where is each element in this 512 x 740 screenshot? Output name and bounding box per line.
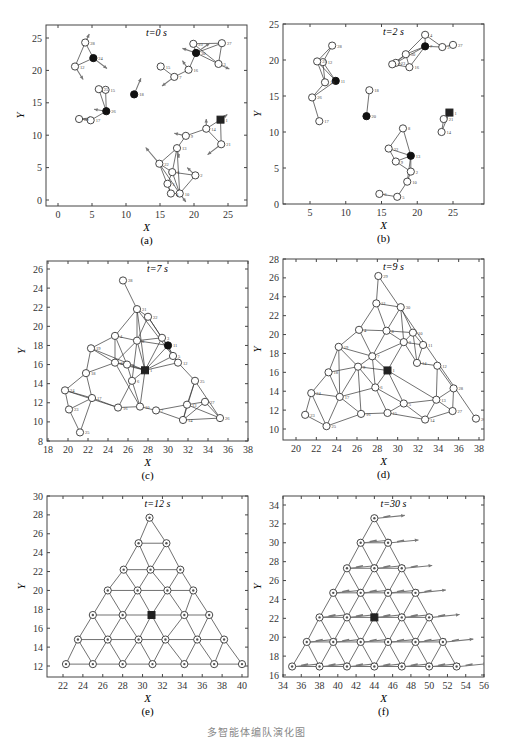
x-tick-label: 32	[413, 443, 423, 454]
y-axis-label: Y	[14, 111, 26, 119]
y-tick-label: 26	[269, 575, 279, 586]
agent-id-label: 6	[384, 192, 387, 197]
agent-circle	[87, 345, 94, 352]
formation-link	[340, 367, 358, 397]
formation-link	[115, 363, 140, 407]
agent-circle	[215, 60, 222, 67]
agent-center-dot	[165, 542, 167, 544]
agent-id-label: 18	[374, 88, 379, 93]
agent-id-label: 11	[428, 343, 432, 348]
panel-time-title: t=12 s	[145, 498, 171, 509]
agent-id-label: 17	[324, 119, 329, 124]
y-axis-label: Y	[251, 345, 263, 353]
y-tick-label: 20	[269, 55, 279, 66]
agent-center-dot	[241, 663, 243, 665]
y-tick-label: 24	[33, 547, 43, 558]
x-tick-label: 22	[311, 443, 321, 454]
agent-id-label: 22	[394, 147, 399, 152]
agent-filled-circle	[103, 108, 110, 115]
leader-agent-square	[384, 367, 391, 374]
arrow-head-icon	[182, 48, 186, 51]
agent-center-dot	[92, 663, 94, 665]
agent-id-label: 10	[418, 331, 423, 336]
leader-agent-square	[217, 116, 224, 123]
y-tick-label: 26	[33, 264, 43, 275]
agent-circle	[76, 429, 83, 436]
agent-circle	[201, 398, 208, 405]
x-tick-label: 20	[63, 444, 73, 455]
agent-center-dot	[208, 614, 210, 616]
formation-link	[374, 568, 388, 593]
y-tick-label: 14	[33, 378, 43, 389]
agent-id-label: 25	[332, 424, 337, 429]
x-tick-label: 50	[424, 680, 434, 691]
agent-filled-circle	[90, 54, 97, 61]
formation-link	[347, 593, 361, 618]
x-tick-label: 28	[118, 680, 128, 691]
agent-circle	[385, 145, 392, 152]
y-tick-label: 0	[37, 195, 42, 206]
x-axis-label: X	[143, 456, 152, 468]
plot-frame	[47, 261, 248, 441]
agent-id-label: 14	[188, 418, 193, 423]
x-tick-label: 38	[315, 680, 325, 691]
formation-link	[347, 617, 361, 642]
agent-circle	[450, 385, 457, 392]
agent-center-dot	[442, 641, 444, 643]
y-tick-label: 16	[33, 359, 43, 370]
formation-link	[359, 330, 372, 356]
x-tick-label: 26	[123, 444, 133, 455]
formation-link	[93, 590, 108, 615]
x-tick-label: 48	[406, 680, 416, 691]
y-tick-label: 30	[33, 491, 43, 502]
agent-circle	[173, 145, 180, 152]
agent-center-dot	[166, 589, 168, 591]
y-tick-label: 30	[269, 537, 279, 548]
agent-id-label: 4	[120, 334, 123, 339]
formation-link	[376, 276, 378, 303]
formation-link	[347, 568, 361, 593]
formation-link	[372, 331, 386, 357]
agent-id-label: 9	[401, 160, 404, 165]
x-tick-label: 38	[217, 680, 227, 691]
formation-link	[358, 367, 375, 388]
formation-link	[108, 615, 123, 640]
formation-link	[333, 642, 347, 667]
formation-link	[436, 366, 437, 400]
agent-circle	[449, 407, 456, 414]
formation-link	[307, 642, 320, 667]
agent-id-label: 20	[84, 117, 89, 122]
formation-link	[320, 617, 334, 642]
agent-id-label: 8	[408, 126, 411, 131]
formation-link	[165, 615, 184, 640]
formation-link	[139, 543, 151, 569]
formation-link	[123, 590, 138, 615]
agent-id-label: 29	[383, 274, 388, 279]
agent-center-dot	[428, 665, 430, 667]
agent-center-dot	[136, 589, 138, 591]
formation-link	[347, 642, 361, 667]
y-tick-label: 28	[269, 556, 279, 567]
agent-id-label: 7	[179, 75, 182, 80]
agent-center-dot	[428, 616, 430, 618]
agent-filled-circle	[363, 113, 370, 120]
agent-circle	[309, 94, 316, 101]
agent-center-dot	[179, 568, 181, 570]
agent-circle	[434, 362, 441, 369]
agent-circle	[336, 393, 343, 400]
agent-circle	[440, 115, 447, 122]
formation-link	[167, 590, 184, 615]
formation-link	[333, 593, 347, 618]
y-tick-label: 10	[32, 130, 42, 141]
agent-id-label: 15	[393, 411, 398, 416]
y-tick-label: 15	[269, 91, 279, 102]
x-tick-label: 20	[189, 209, 199, 220]
x-tick-label: 34	[203, 444, 213, 455]
agent-circle	[399, 125, 406, 132]
x-tick-label: 30	[138, 680, 148, 691]
formation-link	[386, 307, 400, 331]
agent-circle	[171, 73, 178, 80]
y-tick-label: 14	[33, 642, 43, 653]
agent-center-dot	[213, 663, 215, 665]
agent-circle	[216, 414, 223, 421]
